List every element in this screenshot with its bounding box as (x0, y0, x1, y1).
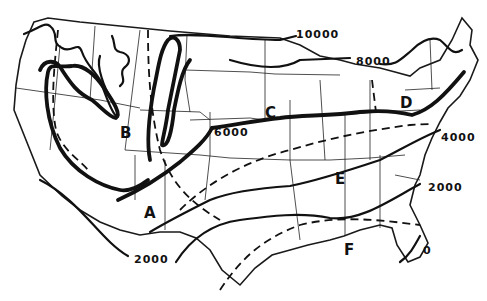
contour-label-6000: 6000 (214, 127, 249, 138)
contour-label-0: 0 (423, 245, 432, 256)
contour-label-4000: 4000 (441, 132, 476, 143)
region-label-e: E (335, 172, 345, 187)
region-label-c: C (265, 106, 276, 121)
contour-label-8000: 8000 (356, 56, 391, 67)
us-contour-map (0, 0, 487, 301)
region-label-f: F (344, 243, 354, 258)
region-label-b: B (120, 126, 131, 141)
region-label-d: D (400, 96, 412, 111)
contour-label-2000-west: 2000 (134, 254, 169, 265)
dashed-boundaries (53, 30, 430, 290)
contour-lines (24, 25, 464, 262)
region-label-a: A (144, 206, 156, 221)
contour-label-10000: 10000 (296, 29, 339, 40)
contour-label-2000-east: 2000 (428, 182, 463, 193)
